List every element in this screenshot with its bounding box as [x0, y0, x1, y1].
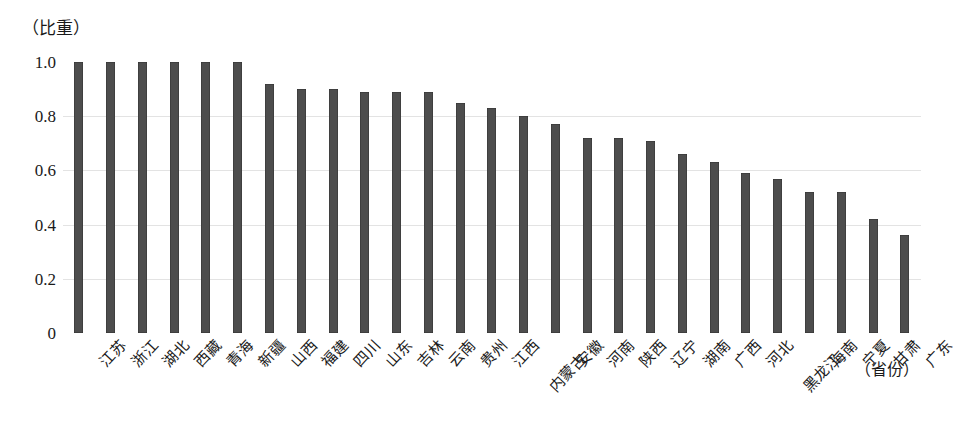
bar	[74, 62, 83, 333]
bar	[805, 192, 814, 333]
bar	[138, 62, 147, 333]
bar-slot	[412, 62, 444, 333]
x-axis-tick: 新疆	[256, 338, 287, 370]
x-axis-tick: 河北	[765, 338, 796, 370]
x-axis-tick: 河南	[606, 338, 637, 370]
bar	[646, 141, 655, 333]
bar-slot	[349, 62, 381, 333]
x-axis-tick: 广东	[924, 338, 955, 370]
bar	[233, 62, 242, 333]
y-axis-tick: 0.8	[10, 108, 56, 125]
x-axis-tick: 浙江	[129, 338, 160, 370]
bar-slot	[127, 62, 159, 333]
bar	[741, 173, 750, 333]
bar-slot	[508, 62, 540, 333]
x-axis-tick: 湖南	[701, 338, 732, 370]
y-axis-tick: 1.0	[10, 54, 56, 71]
x-axis-tick: 贵州	[479, 338, 510, 370]
x-axis-tick: 山东	[383, 338, 414, 370]
bar-slot	[285, 62, 317, 333]
bar	[837, 192, 846, 333]
bar-slot	[381, 62, 413, 333]
bar	[614, 138, 623, 333]
x-axis-tick: 湖北	[161, 338, 192, 370]
bar	[551, 124, 560, 333]
x-axis-tick: 福建	[320, 338, 351, 370]
bar	[360, 92, 369, 333]
x-axis-tick: 江西	[511, 338, 542, 370]
bar-slot	[317, 62, 349, 333]
x-axis-tick: 青海	[225, 338, 256, 370]
bar-slot	[825, 62, 857, 333]
bar-slot	[63, 62, 95, 333]
bar	[106, 62, 115, 333]
x-axis-tick: 云南	[447, 338, 478, 370]
plot-area	[63, 62, 921, 333]
bar	[265, 84, 274, 333]
bar-slot	[794, 62, 826, 333]
bar-slot	[444, 62, 476, 333]
bar	[297, 89, 306, 333]
bar	[487, 108, 496, 333]
y-axis-tick: 0	[10, 325, 56, 342]
bar-slot	[158, 62, 190, 333]
bar-slot	[762, 62, 794, 333]
bar-slot	[698, 62, 730, 333]
bar-slot	[222, 62, 254, 333]
bar-series	[63, 62, 921, 333]
bar	[710, 162, 719, 333]
y-axis-unit-label: （比重）	[22, 14, 90, 39]
x-axis-line	[63, 333, 921, 334]
x-axis-tick: 吉林	[415, 338, 446, 370]
bar	[329, 89, 338, 333]
y-axis-tick: 0.6	[10, 162, 56, 179]
bar-slot	[476, 62, 508, 333]
bar-slot	[190, 62, 222, 333]
bar-slot	[667, 62, 699, 333]
bar	[519, 116, 528, 333]
bar-slot	[635, 62, 667, 333]
bar	[869, 219, 878, 333]
bar	[424, 92, 433, 333]
bar-slot	[95, 62, 127, 333]
bar	[456, 103, 465, 333]
x-axis-tick-labels: （省份） 江苏浙江湖北西藏青海新疆山西福建四川山东吉林云南贵州江西内蒙古安徽河南…	[63, 336, 921, 416]
bar-slot	[730, 62, 762, 333]
bar-slot	[254, 62, 286, 333]
x-axis-tick: 四川	[352, 338, 383, 370]
y-axis-tick: 0.4	[10, 216, 56, 233]
bar-slot	[889, 62, 921, 333]
x-axis-tick: 江苏	[97, 338, 128, 370]
bar	[583, 138, 592, 333]
x-axis-tick: 西藏	[193, 338, 224, 370]
x-axis-tick: 广西	[733, 338, 764, 370]
bar	[678, 154, 687, 333]
bar-slot	[603, 62, 635, 333]
x-axis-tick: 山西	[288, 338, 319, 370]
bar	[773, 179, 782, 333]
bar-slot	[571, 62, 603, 333]
y-axis-tick: 0.2	[10, 270, 56, 287]
bar	[392, 92, 401, 333]
x-axis-tick: 陕西	[638, 338, 669, 370]
bar-slot	[857, 62, 889, 333]
x-axis-tick: 辽宁	[669, 338, 700, 370]
bar	[170, 62, 179, 333]
bar	[201, 62, 210, 333]
bar	[900, 235, 909, 333]
y-axis-tick-labels: 1.00.80.60.40.20	[0, 62, 56, 333]
bar-slot	[539, 62, 571, 333]
